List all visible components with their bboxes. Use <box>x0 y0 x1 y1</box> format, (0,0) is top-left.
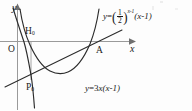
origin-label: O <box>8 45 15 55</box>
point-label-a: A <box>96 46 103 56</box>
y-axis-label: y <box>12 3 16 13</box>
eq-exp-factor: (x-1) <box>134 11 152 21</box>
scan-speck <box>152 6 154 10</box>
eq-exp-exponent: x-1 <box>128 8 135 14</box>
scan-speck <box>160 1 163 3</box>
scan-speck <box>175 8 178 10</box>
y-axis <box>14 4 20 111</box>
eq-par-factor: (x-1) <box>103 83 121 93</box>
equation-exponential: y=(12)x-1(x-1) <box>103 9 152 25</box>
x-axis-label: x <box>130 44 134 54</box>
eq-exp-open-paren: ( <box>112 9 116 24</box>
point-p-subscript: 0 <box>31 86 34 92</box>
point-label-h: H0 <box>25 27 35 37</box>
equation-parabola: y=3x(x-1) <box>85 84 120 93</box>
math-figure: y x O H0 A P0 y=(12)x-1(x-1) y=3x(x-1) <box>0 0 192 110</box>
x-axis <box>0 38 136 44</box>
eq-exp-fraction: 12 <box>117 9 123 25</box>
point-a-letter: A <box>96 45 103 55</box>
point-h-letter: H <box>25 26 32 36</box>
point-h-subscript: 0 <box>32 30 35 36</box>
eq-exp-denominator: 2 <box>117 17 123 25</box>
point-label-p: P0 <box>26 83 34 93</box>
eq-exp-close-paren: ) <box>123 9 127 24</box>
